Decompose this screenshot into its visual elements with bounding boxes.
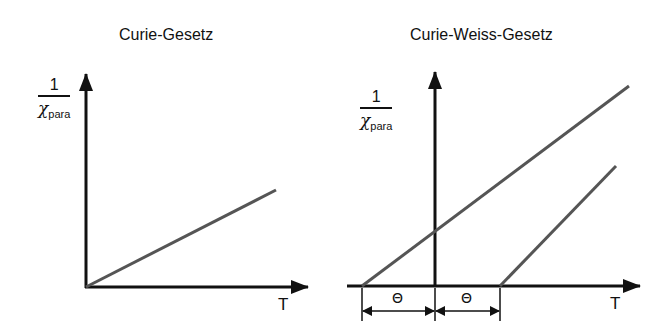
fraction-bar bbox=[38, 95, 70, 97]
left-x-label: T bbox=[278, 295, 288, 315]
curie-weiss-line-1 bbox=[362, 86, 629, 286]
curie-weiss-title: Curie-Weiss-Gesetz bbox=[410, 26, 553, 44]
diagram-canvas bbox=[0, 0, 670, 332]
y-label-numerator: 1 bbox=[38, 76, 70, 94]
y-label-denominator: χpara bbox=[360, 110, 392, 136]
curie-chart bbox=[85, 74, 308, 288]
curie-title: Curie-Gesetz bbox=[119, 26, 213, 44]
curie-line bbox=[86, 190, 276, 287]
y-label-numerator: 1 bbox=[360, 88, 392, 106]
y-label-denominator: χpara bbox=[38, 98, 70, 124]
fraction-bar bbox=[360, 107, 392, 109]
right-x-label: T bbox=[610, 294, 620, 314]
curie-weiss-line-2 bbox=[500, 166, 616, 286]
theta-label-right: Θ bbox=[461, 290, 472, 306]
theta-label-left: Θ bbox=[392, 290, 403, 306]
left-y-label: 1 χpara bbox=[38, 76, 70, 124]
right-y-label: 1 χpara bbox=[360, 88, 392, 136]
